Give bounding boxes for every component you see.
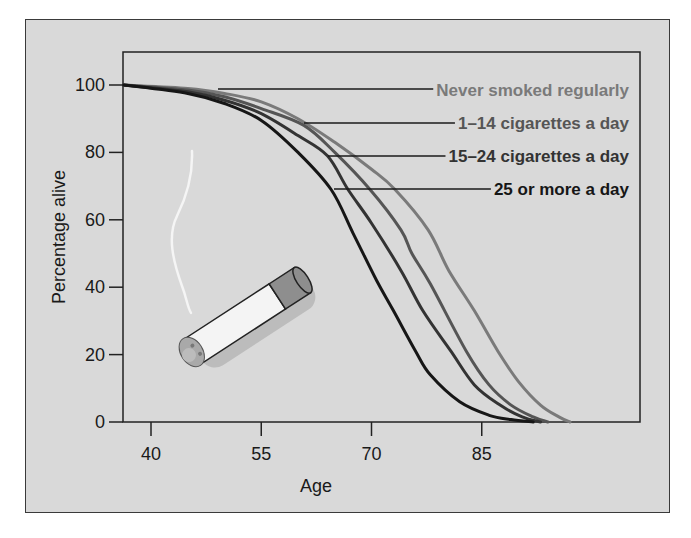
legend-label-1: 1–14 cigarettes a day <box>458 114 630 133</box>
y-tick-label: 40 <box>85 277 105 297</box>
y-axis: 020406080100 <box>75 75 123 432</box>
curve-0 <box>124 85 570 422</box>
y-tick-label: 100 <box>75 75 105 95</box>
legend-label-3: 25 or more a day <box>494 180 630 199</box>
legend: Never smoked regularly1–14 cigarettes a … <box>218 81 630 199</box>
y-tick-label: 80 <box>85 142 105 162</box>
x-tick-label: 55 <box>251 444 271 464</box>
legend-label-2: 15–24 cigarettes a day <box>448 147 629 166</box>
x-tick-label: 85 <box>472 444 492 464</box>
curve-1 <box>124 85 548 422</box>
x-axis: 40557085 <box>141 422 492 464</box>
curve-3 <box>124 85 533 422</box>
y-tick-label: 0 <box>95 412 105 432</box>
x-axis-title: Age <box>300 476 332 496</box>
chart-canvas: Never smoked regularly1–14 cigarettes a … <box>26 20 671 514</box>
smoke-illustration <box>172 151 192 313</box>
x-tick-label: 40 <box>141 444 161 464</box>
x-tick-label: 70 <box>361 444 381 464</box>
cigarette-illustration <box>174 263 323 381</box>
y-tick-label: 60 <box>85 210 105 230</box>
chart-figure: Never smoked regularly1–14 cigarettes a … <box>25 19 670 513</box>
legend-label-0: Never smoked regularly <box>436 81 629 100</box>
y-tick-label: 20 <box>85 345 105 365</box>
survival-curves <box>124 85 570 422</box>
y-axis-title: Percentage alive <box>49 170 69 304</box>
